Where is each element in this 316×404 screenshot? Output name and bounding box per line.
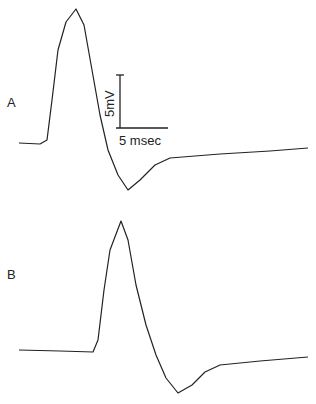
scale-time-label: 5 msec [119,133,161,148]
scale-bar [116,75,168,128]
trace-b [19,221,308,393]
figure-canvas [0,0,316,404]
trace-a [19,9,308,190]
panel-label-a: A [7,95,16,110]
scale-voltage-label: 5mV [102,90,117,117]
panel-label-b: B [7,267,16,282]
